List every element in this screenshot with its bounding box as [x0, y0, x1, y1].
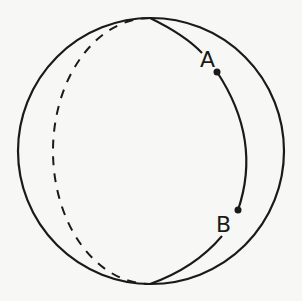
- front-meridian-lower: [150, 236, 222, 284]
- back-meridian-dashed: [53, 18, 150, 284]
- front-meridian-arc-ab: [217, 72, 246, 210]
- point-b-label: B: [216, 212, 231, 237]
- point-a-label: A: [200, 47, 215, 72]
- sphere-outline: [18, 18, 284, 284]
- sphere-diagram: A B: [0, 0, 302, 301]
- point-b-dot: [235, 207, 242, 214]
- front-meridian-upper: [150, 18, 202, 53]
